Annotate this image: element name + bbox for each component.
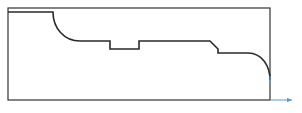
profile-drawing [0,0,302,113]
part-profile-line [8,12,270,80]
diagram-canvas [0,0,302,113]
stock-outline [8,8,270,100]
